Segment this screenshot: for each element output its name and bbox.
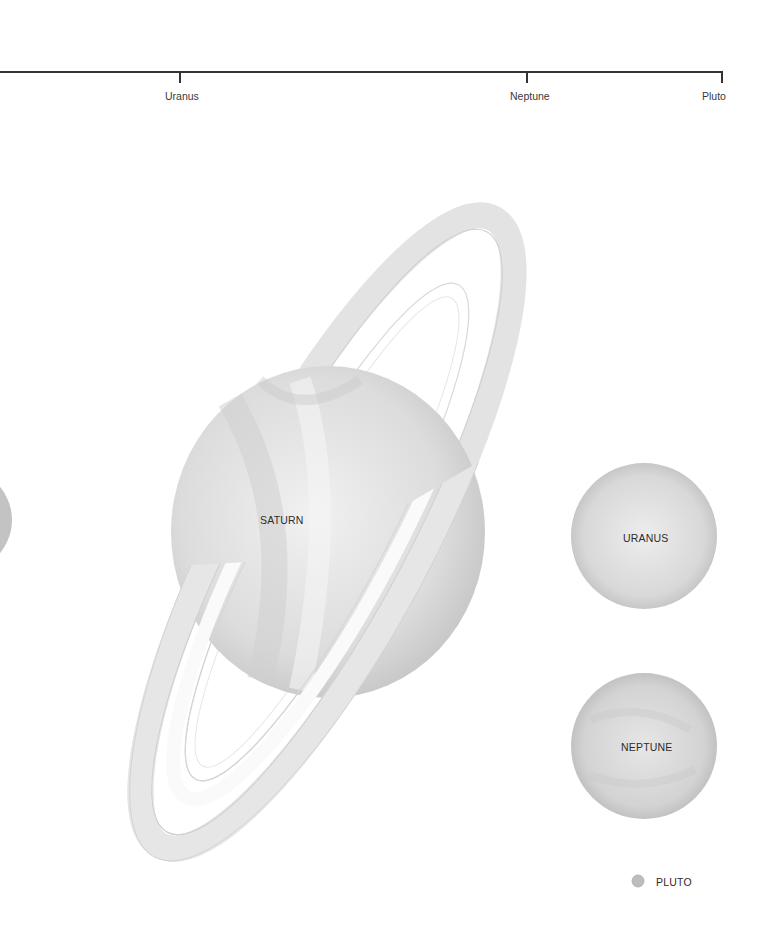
uranus-label: URANUS xyxy=(623,532,669,544)
neptune-label: NEPTUNE xyxy=(621,741,673,753)
planets-illustration xyxy=(0,0,778,940)
pluto-dot xyxy=(632,875,644,887)
jupiter-edge xyxy=(0,460,12,580)
saturn-label: SATURN xyxy=(260,514,304,526)
pluto-label: PLUTO xyxy=(656,876,692,888)
